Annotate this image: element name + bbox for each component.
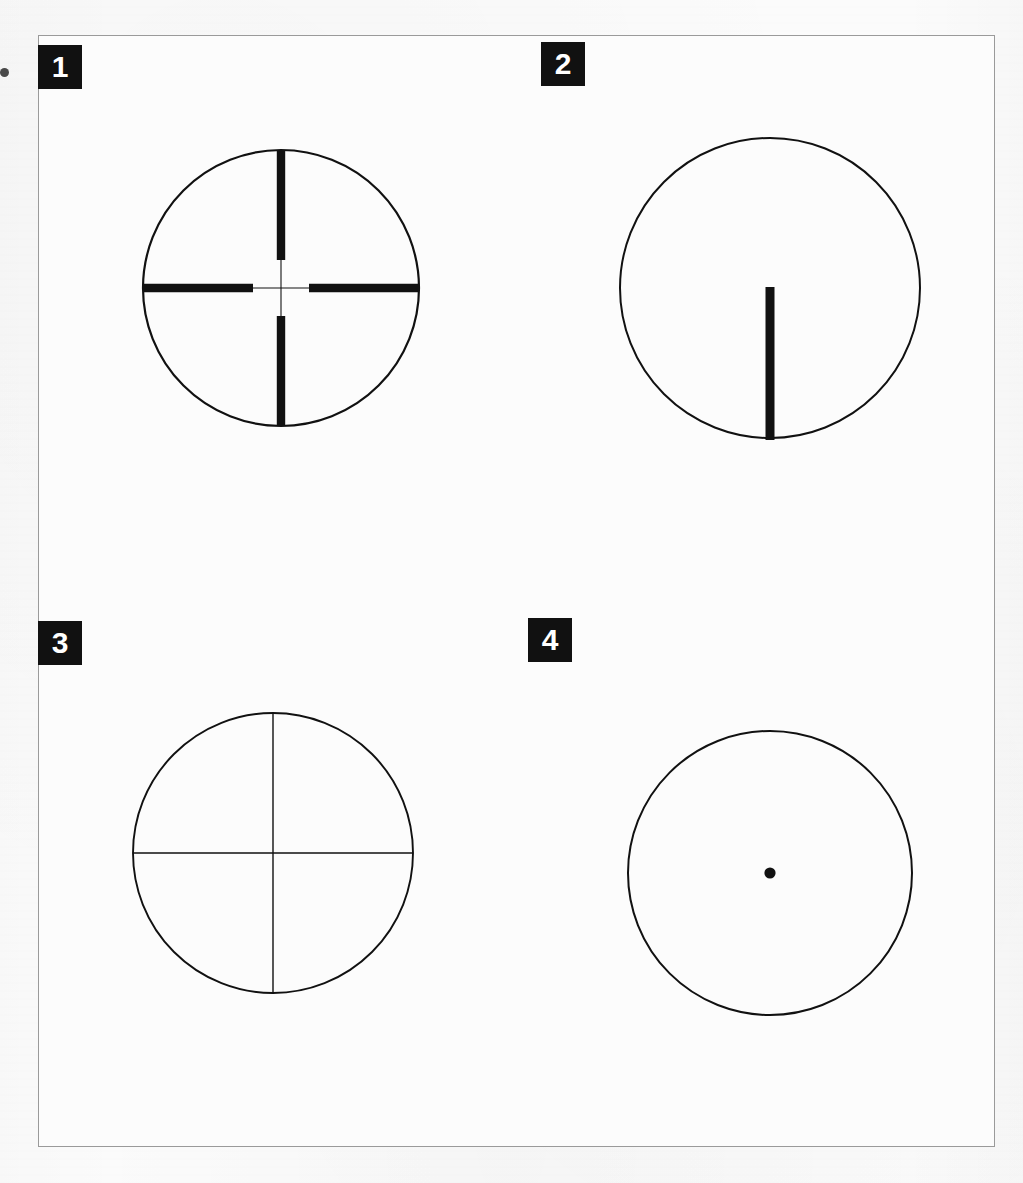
post-reticle-drawing <box>610 128 930 448</box>
figure-page: 1 2 3 4 <box>0 0 1023 1183</box>
fine-crosshair-reticle-drawing <box>123 703 423 1003</box>
duplex-reticle-drawing <box>131 138 431 438</box>
panel-label-3: 3 <box>38 621 82 665</box>
scan-edge-artifact <box>0 68 9 77</box>
panel-label-4: 4 <box>528 618 572 662</box>
dot-reticle-drawing <box>618 721 922 1025</box>
panel-label-2: 2 <box>541 42 585 86</box>
panel-label-1: 1 <box>38 45 82 89</box>
